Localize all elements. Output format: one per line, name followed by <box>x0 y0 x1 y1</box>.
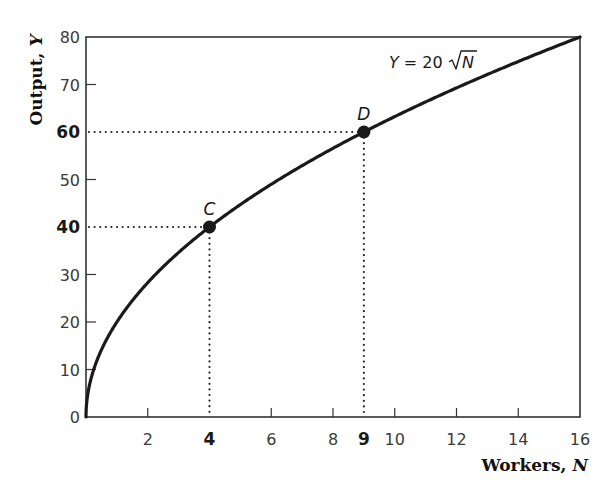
production-function-chart: 2468910121416 01020304050607080 CD Y = 2… <box>0 0 616 492</box>
x-tick-label: 14 <box>508 430 528 449</box>
plot-border <box>86 37 580 417</box>
point-c-marker <box>203 221 216 234</box>
formula-n-var: N <box>462 53 474 72</box>
production-curve <box>86 37 580 417</box>
y-tick-label: 20 <box>60 313 80 332</box>
y-tick-label: 80 <box>60 28 80 47</box>
x-axis-ticks: 2468910121416 <box>143 408 591 449</box>
y-tick-label: 70 <box>60 76 80 95</box>
x-axis-title: Workers, N <box>480 455 589 475</box>
x-tick-label: 2 <box>143 430 153 449</box>
y-axis-title: Output, Y <box>26 33 46 126</box>
y-tick-label: 60 <box>56 122 80 142</box>
y-tick-label: 10 <box>60 361 80 380</box>
point-c-label: C <box>204 199 216 219</box>
point-d-label: D <box>357 104 370 124</box>
y-tick-label: 50 <box>60 171 80 190</box>
formula-equals: = 20 <box>399 53 443 72</box>
y-axis-ticks: 01020304050607080 <box>56 28 96 427</box>
y-tick-label: 0 <box>70 408 80 427</box>
x-tick-label: 9 <box>358 429 370 449</box>
x-tick-label: 4 <box>204 429 216 449</box>
x-tick-label: 10 <box>385 430 405 449</box>
x-tick-label: 6 <box>266 430 276 449</box>
x-tick-label: 12 <box>446 430 466 449</box>
curve-formula-label: Y = 20 <box>389 53 443 72</box>
x-tick-label: 16 <box>570 430 590 449</box>
plot-frame <box>86 37 580 417</box>
y-tick-label: 30 <box>60 266 80 285</box>
x-tick-label: 8 <box>328 430 338 449</box>
y-tick-label: 40 <box>56 217 80 237</box>
dotted-guide-lines <box>89 132 364 414</box>
point-d-marker <box>357 126 370 139</box>
